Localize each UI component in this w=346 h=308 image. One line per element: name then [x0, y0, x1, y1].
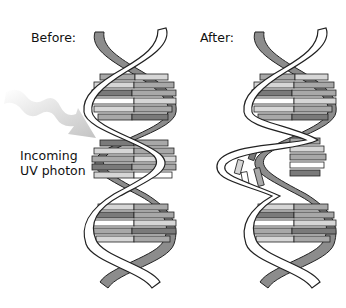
uv-photon-arrow-icon [4, 90, 96, 138]
base-pairs-3 [92, 204, 176, 242]
dna-diagram [0, 0, 346, 308]
dna-helix-before [84, 28, 176, 288]
base-pairs-3 [252, 204, 336, 242]
dna-helix-after [217, 28, 336, 288]
